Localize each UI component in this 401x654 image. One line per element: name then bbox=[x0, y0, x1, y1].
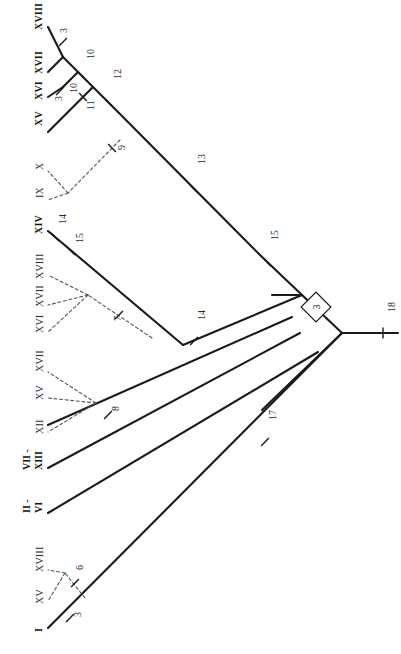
r-ii-vi-lower: VI bbox=[34, 502, 44, 513]
taxon-label-xvi-2: XVI bbox=[33, 81, 44, 100]
tk-13 bbox=[190, 185, 198, 193]
taxon-label-x-4: X bbox=[34, 163, 45, 170]
node-number-6-15: 6 bbox=[74, 565, 85, 570]
node-number-17-14: 17 bbox=[267, 410, 278, 420]
tk-12 bbox=[106, 100, 114, 108]
tk-3a bbox=[59, 38, 67, 46]
node-number-3-2: 3 bbox=[53, 96, 64, 101]
taxon-label-xv-14: XV bbox=[34, 589, 45, 604]
node-number-3-0: 3 bbox=[58, 28, 69, 33]
dashed-branch-group bbox=[48, 140, 152, 601]
node-number-11-4: 11 bbox=[85, 100, 96, 110]
r-vii-xiii-upper: VII - bbox=[22, 449, 32, 470]
node-number-14-8: 14 bbox=[57, 214, 68, 224]
node-number-9-6: 9 bbox=[116, 145, 127, 150]
taxon-label-xviii-0: XVIII bbox=[33, 3, 44, 30]
r-ii-vi-upper: II - bbox=[22, 499, 32, 513]
e-leaf-i bbox=[48, 333, 342, 628]
tk-15a bbox=[67, 247, 75, 255]
tk-14a bbox=[51, 233, 59, 241]
node-number-15-9: 15 bbox=[74, 233, 85, 243]
taxon-label-xvii-1: XVII bbox=[33, 51, 44, 74]
taxon-label-xv-11: XV bbox=[34, 385, 45, 400]
d-6-a bbox=[48, 570, 65, 573]
taxon-label-xvii-10: XVII bbox=[34, 350, 45, 372]
r-vii-xiii-lower: XIII bbox=[34, 451, 44, 470]
d-9-x bbox=[48, 171, 68, 193]
taxon-label-ix-5: IX bbox=[34, 187, 45, 198]
e-10-3a bbox=[63, 57, 78, 72]
d-7-a bbox=[48, 275, 88, 295]
d-8-c bbox=[48, 403, 96, 432]
solid-branch-group bbox=[48, 27, 398, 628]
e-12-11 bbox=[93, 87, 118, 112]
taxon-label-xviii-13: XVIII bbox=[34, 547, 45, 572]
cladogram-figure: 3 XVIIIXVIIXVIXVXIXXIVXVIIIXVIIXVIXVIIXV… bbox=[0, 0, 401, 654]
tk-6 bbox=[71, 579, 79, 587]
d-9-ix bbox=[48, 193, 68, 200]
tk-10a bbox=[79, 73, 87, 81]
e-leaf-vi bbox=[48, 352, 318, 513]
tk-17 bbox=[261, 438, 269, 446]
taxon-label-xii-12: XII bbox=[34, 420, 45, 434]
node-number-3-16: 3 bbox=[72, 612, 83, 617]
taxon-label-i-15: I bbox=[33, 628, 44, 632]
boxed-node-value: 3 bbox=[311, 305, 322, 310]
taxon-label-xv-3: XV bbox=[33, 111, 44, 126]
node-number-12-5: 12 bbox=[112, 69, 123, 79]
d-6-b bbox=[48, 573, 65, 601]
node-number-14-11: 14 bbox=[196, 310, 207, 320]
taxon-label-xvi-9: XVI bbox=[34, 315, 45, 333]
node-number-8-13: 8 bbox=[110, 406, 121, 411]
taxon-label-xviii-7: XVIII bbox=[34, 254, 45, 279]
node-number-10-1: 10 bbox=[85, 49, 96, 59]
taxon-label-xiv-6: XIV bbox=[33, 215, 44, 234]
tk-15b bbox=[263, 258, 271, 266]
node-number-10-3: 10 bbox=[68, 83, 79, 93]
e-3a-xvii bbox=[48, 57, 63, 72]
node-number-13-7: 13 bbox=[196, 154, 207, 164]
node-number-15-12: 15 bbox=[269, 230, 280, 240]
e-main-13 bbox=[118, 112, 261, 256]
taxon-label-xvii-8: XVII bbox=[34, 285, 45, 307]
d-7-c bbox=[48, 295, 88, 332]
node-number-18-17: 18 bbox=[386, 302, 397, 312]
e-leaf-xiii bbox=[48, 333, 300, 468]
node-number-7-10: 7 bbox=[112, 316, 123, 321]
tk-8 bbox=[104, 411, 112, 419]
